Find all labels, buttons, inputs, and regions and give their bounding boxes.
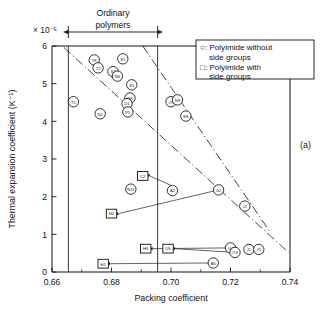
plot-frame (52, 46, 290, 272)
x-tick-label: 0.74 (282, 277, 299, 287)
vertical-reference-lines (68, 46, 157, 272)
y-axis-ticks: 0123456 (42, 41, 56, 277)
data-point-label: A6 (211, 261, 217, 266)
x-axis-ticks: 0.660.680.700.720.74 (44, 268, 299, 288)
data-point-label: N6 (115, 74, 121, 79)
data-point-label: T8 (92, 58, 98, 63)
y-tick-label: 3 (42, 154, 47, 164)
data-point-J1: J1 (244, 244, 254, 254)
data-point-label: C2 (140, 174, 146, 179)
legend-entry-1-line1: □: Polyimide with (200, 63, 261, 72)
y-tick-label: 6 (42, 41, 47, 51)
scatter-plot: 0.660.680.700.720.74 0123456 T8T2S5S2N6S… (0, 0, 326, 325)
data-point-label: D1 (124, 101, 130, 106)
data-point-label: J1 (247, 247, 252, 252)
data-point-A2: A2 (167, 185, 177, 195)
x-tick-label: 0.72 (222, 277, 239, 287)
data-point-label: T5 (71, 100, 77, 105)
data-point-label: N11 (127, 187, 135, 192)
data-point-N6: N6 (112, 71, 122, 81)
data-point-O3: O3 (230, 247, 240, 257)
data-point-H2: H2 (106, 209, 116, 218)
series-squares: C2H2H5D5H1 (98, 172, 173, 269)
data-point-S1: S1 (127, 80, 137, 90)
data-point-J5: J5 (254, 244, 264, 254)
x-axis-title: Packing coefficient (134, 293, 208, 303)
series-circles: T8T2S5S2N6S1N8D1P5T5N1O5N9E8N11A2G2J2G1O… (68, 54, 264, 269)
y-tick-label: 4 (42, 117, 47, 127)
x-tick-label: 0.66 (44, 277, 61, 287)
y-tick-label: 1 (42, 230, 47, 240)
bracket-label-line1: Ordinary (97, 8, 131, 18)
data-point-N11: N11 (126, 184, 136, 194)
data-point-G2: G2 (213, 185, 223, 195)
data-point-T5: T5 (68, 97, 78, 107)
data-point-C2: C2 (138, 172, 148, 181)
bracket-label-line2: polymers (96, 20, 131, 30)
data-point-label: E8 (183, 114, 189, 119)
data-point-N1: N1 (95, 109, 105, 119)
data-point-H5: H5 (141, 244, 151, 253)
leader-line (150, 176, 171, 185)
leader-line (110, 263, 213, 264)
data-point-label: J5 (257, 247, 262, 252)
y-tick-label: 5 (42, 79, 47, 89)
y-axis-exponent-label: × 10⁻⁵ (33, 25, 57, 35)
legend: ○: Polyimide without side groups □: Poly… (196, 40, 314, 81)
data-point-label: T2 (96, 66, 102, 71)
x-tick-label: 0.68 (103, 277, 120, 287)
data-point-label: H2 (109, 211, 115, 216)
data-point-label: H1 (100, 262, 106, 267)
data-point-label: S1 (129, 83, 135, 88)
panel-label: (a) (300, 140, 311, 150)
data-points: T8T2S5S2N6S1N8D1P5T5N1O5N9E8N11A2G2J2G1O… (68, 54, 264, 269)
data-point-label: P5 (125, 110, 131, 115)
legend-entry-1-line2: side groups (209, 72, 251, 81)
data-point-label: H5 (143, 246, 149, 251)
y-tick-label: 0 (42, 267, 47, 277)
data-point-D5: D5 (163, 244, 173, 253)
data-point-A6: A6 (208, 258, 218, 268)
x-tick-label: 0.70 (163, 277, 180, 287)
data-point-label: D5 (165, 246, 171, 251)
y-axis-title: Thermal expansion coefficient (K⁻¹) (7, 90, 17, 229)
figure-container: 0.660.680.700.720.74 0123456 T8T2S5S2N6S… (0, 0, 326, 325)
ordinary-polymers-bracket: Ordinary polymers (68, 8, 157, 38)
data-point-T2: T2 (93, 63, 103, 73)
data-point-H1: H1 (98, 259, 108, 268)
data-point-label: G2 (216, 188, 222, 193)
data-point-label: A2 (170, 188, 176, 193)
data-point-E8: E8 (181, 111, 191, 121)
data-point-label: S5 (120, 57, 126, 62)
data-point-label: J2 (243, 204, 248, 209)
data-point-S5: S5 (118, 54, 128, 64)
data-point-P5: P5 (123, 107, 133, 117)
legend-entry-0-line2: side groups (209, 53, 251, 62)
data-point-label: N9 (175, 98, 181, 103)
data-point-J2: J2 (240, 201, 250, 211)
legend-entry-0-line1: ○: Polyimide without (200, 43, 273, 52)
y-tick-label: 2 (42, 192, 47, 202)
data-point-label: O3 (232, 250, 238, 255)
data-point-label: N1 (98, 112, 104, 117)
data-point-N9: N9 (172, 95, 182, 105)
